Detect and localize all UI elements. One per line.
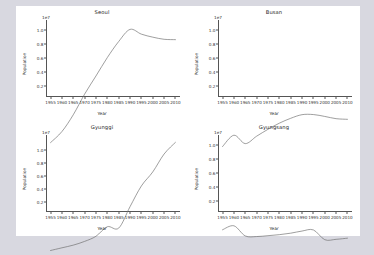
y-tick-mark — [216, 86, 218, 87]
x-tick-label: 1970 — [79, 215, 89, 220]
x-tick-label: 2000 — [148, 100, 158, 105]
x-tick-mark — [336, 212, 337, 214]
x-tick-label: 1990 — [297, 215, 307, 220]
y-tick-mark — [44, 189, 46, 190]
y-tick-mark — [216, 58, 218, 59]
x-tick-mark — [73, 212, 74, 214]
y-axis-label: Population — [194, 167, 199, 190]
x-tick-label: 2005 — [331, 215, 341, 220]
x-tick-mark — [164, 97, 165, 99]
x-tick-mark — [118, 97, 119, 99]
x-tick-label: 1955 — [217, 100, 227, 105]
y-tick-mark — [216, 159, 218, 160]
x-tick-label: 1960 — [229, 215, 239, 220]
subplot-grid: Seoul 1e7 Population 0.20.40.60.81.01955… — [16, 6, 360, 236]
x-tick-label: 1975 — [91, 100, 101, 105]
y-axis-label: Population — [194, 52, 199, 75]
x-tick-label: 1980 — [274, 215, 284, 220]
x-tick-mark — [245, 212, 246, 214]
x-tick-label: 1960 — [57, 100, 67, 105]
x-tick-mark — [222, 97, 223, 99]
x-tick-mark — [336, 97, 337, 99]
y-axis-label: Population — [22, 52, 27, 75]
figure-canvas: Seoul 1e7 Population 0.20.40.60.81.01955… — [16, 6, 360, 236]
x-tick-label: 1965 — [68, 215, 78, 220]
plot-area: 0.20.40.60.81.01955196019651970197519801… — [46, 22, 180, 97]
x-tick-label: 1995 — [136, 215, 146, 220]
x-tick-mark — [290, 212, 291, 214]
x-tick-label: 1990 — [125, 215, 135, 220]
x-tick-mark — [107, 97, 108, 99]
x-tick-mark — [324, 97, 325, 99]
x-tick-label: 2010 — [170, 100, 180, 105]
line-series — [46, 137, 180, 255]
x-tick-mark — [222, 212, 223, 214]
subplot-gyungsang: Gyungsang 1e7 Population 0.20.40.60.81.0… — [188, 121, 360, 236]
y-tick-mark — [216, 145, 218, 146]
x-tick-mark — [164, 212, 165, 214]
x-tick-label: 1960 — [57, 215, 67, 220]
x-tick-label: 1990 — [297, 100, 307, 105]
x-tick-label: 1975 — [91, 215, 101, 220]
x-tick-mark — [152, 97, 153, 99]
x-tick-mark — [302, 97, 303, 99]
x-tick-label: 1970 — [251, 215, 261, 220]
x-tick-label: 1990 — [125, 100, 135, 105]
x-tick-label: 1980 — [274, 100, 284, 105]
x-tick-mark — [324, 212, 325, 214]
x-tick-label: 1975 — [263, 215, 273, 220]
x-tick-mark — [141, 97, 142, 99]
x-tick-mark — [313, 212, 314, 214]
x-tick-mark — [141, 212, 142, 214]
x-tick-label: 1955 — [217, 215, 227, 220]
x-tick-mark — [50, 97, 51, 99]
subplot-gyunggi: Gyunggi 1e7 Population 0.20.40.60.81.019… — [16, 121, 188, 236]
y-tick-mark — [44, 86, 46, 87]
y-tick-mark — [44, 176, 46, 177]
x-tick-mark — [233, 212, 234, 214]
subplot-seoul: Seoul 1e7 Population 0.20.40.60.81.01955… — [16, 6, 188, 121]
y-axis-label: Population — [22, 167, 27, 190]
x-tick-label: 2010 — [342, 215, 352, 220]
x-tick-mark — [256, 212, 257, 214]
x-tick-label: 1970 — [251, 100, 261, 105]
x-tick-label: 1995 — [308, 215, 318, 220]
y-tick-mark — [216, 30, 218, 31]
x-tick-mark — [279, 97, 280, 99]
x-tick-mark — [267, 212, 268, 214]
y-tick-mark — [216, 44, 218, 45]
x-tick-mark — [61, 212, 62, 214]
x-tick-label: 1955 — [45, 100, 55, 105]
x-tick-mark — [290, 97, 291, 99]
line-path — [51, 142, 176, 250]
x-tick-label: 2000 — [320, 215, 330, 220]
x-axis-label: Year — [16, 111, 188, 116]
x-tick-label: 2000 — [320, 100, 330, 105]
y-tick-mark — [44, 30, 46, 31]
x-tick-mark — [130, 97, 131, 99]
x-axis-label: Year — [16, 226, 188, 231]
x-tick-label: 1985 — [285, 215, 295, 220]
x-tick-label: 2010 — [342, 100, 352, 105]
y-tick-mark — [216, 72, 218, 73]
x-tick-mark — [84, 97, 85, 99]
y-tick-mark — [216, 187, 218, 188]
x-tick-mark — [175, 97, 176, 99]
x-tick-label: 1975 — [263, 100, 273, 105]
y-tick-mark — [44, 58, 46, 59]
x-tick-label: 1955 — [45, 215, 55, 220]
x-tick-label: 1985 — [113, 215, 123, 220]
x-tick-mark — [50, 212, 51, 214]
x-tick-mark — [279, 212, 280, 214]
x-tick-mark — [347, 212, 348, 214]
x-tick-label: 1995 — [136, 100, 146, 105]
plot-area: 0.20.40.60.81.01955196019651970197519801… — [46, 137, 180, 212]
plot-area: 0.20.40.60.81.01955196019651970197519801… — [218, 137, 352, 212]
x-tick-label: 2005 — [159, 215, 169, 220]
x-tick-label: 2005 — [331, 100, 341, 105]
x-tick-label: 2010 — [170, 215, 180, 220]
x-tick-label: 1985 — [113, 100, 123, 105]
x-tick-mark — [118, 212, 119, 214]
y-tick-mark — [216, 201, 218, 202]
x-tick-label: 1965 — [240, 215, 250, 220]
